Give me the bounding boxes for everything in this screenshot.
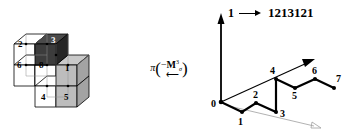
vertex-label-5: 5 bbox=[292, 90, 297, 101]
cube-label-1: 1 bbox=[65, 63, 70, 73]
vertex-label-0: 0 bbox=[211, 98, 216, 109]
vertex-3 bbox=[274, 110, 278, 114]
vertex-0 bbox=[219, 100, 224, 105]
cube-4-front-face bbox=[35, 86, 56, 107]
cube-label-6: 6 bbox=[17, 60, 22, 70]
formula-expression: π( −M3σ ⟵ ) bbox=[138, 48, 200, 88]
right-arrow-icon bbox=[239, 9, 263, 17]
lattice-path-polyline bbox=[221, 79, 334, 112]
cube-label-2: 2 bbox=[18, 39, 23, 49]
relation-source: 1 bbox=[228, 6, 234, 21]
vertex-label-1: 1 bbox=[238, 116, 243, 127]
map-formula: π( −M3σ ⟵ ) bbox=[138, 48, 200, 88]
cube-label-8: 8 bbox=[39, 60, 44, 70]
vertex-label-3: 3 bbox=[280, 108, 285, 119]
faint-axis-arrowhead bbox=[311, 122, 321, 128]
vertical-axis-arrowhead bbox=[218, 13, 225, 24]
cube-label-3: 3 bbox=[51, 35, 56, 45]
vertex-6 bbox=[313, 77, 317, 81]
vertex-label-7: 7 bbox=[336, 73, 341, 84]
vertex-label-6: 6 bbox=[312, 65, 317, 76]
figure-container: 2 6 8 4 1 5 3 π( −M3σ ⟵ ) 1 1213121 bbox=[0, 0, 357, 137]
vertex-7 bbox=[332, 86, 336, 90]
m-subscript: σ bbox=[179, 66, 182, 72]
vertex-label-2: 2 bbox=[253, 89, 258, 100]
m-superscript: 3 bbox=[176, 59, 179, 65]
cube-complex-svg: 2 6 8 4 1 5 3 bbox=[0, 0, 140, 137]
cube-label-5: 5 bbox=[64, 92, 69, 102]
close-paren: ) bbox=[182, 60, 188, 77]
diagonal-axis bbox=[221, 59, 315, 102]
vertex-label-4: 4 bbox=[270, 65, 275, 76]
relation-caption: 1 1213121 bbox=[228, 4, 350, 22]
cube-complex-diagram: 2 6 8 4 1 5 3 bbox=[0, 0, 140, 137]
vertex-4 bbox=[274, 77, 278, 81]
relation-target: 1213121 bbox=[268, 5, 314, 21]
vertex-2 bbox=[254, 101, 258, 105]
vertical-axis bbox=[218, 13, 225, 102]
formula-stack: −M3σ ⟵ bbox=[161, 59, 182, 77]
left-arrow-icon: ⟵ bbox=[166, 71, 178, 77]
vertex-1 bbox=[240, 110, 244, 114]
lattice-path-graph: 1 1213121 bbox=[196, 0, 357, 137]
cube-label-4: 4 bbox=[41, 92, 46, 102]
